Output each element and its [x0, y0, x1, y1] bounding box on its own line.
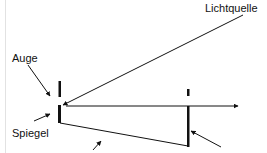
- incident-ray: [63, 15, 243, 105]
- right-bar: [187, 106, 190, 147]
- eye-bar: [59, 81, 62, 97]
- bottom-pointer-arrow: [93, 141, 101, 150]
- slanted-line: [60, 123, 188, 146]
- eye-pointer-arrow: [28, 65, 50, 96]
- right-marker-top: [187, 89, 190, 96]
- mirror-bar: [58, 105, 61, 123]
- mirror-pointer-arrow: [34, 114, 50, 121]
- mirror-label: Spiegel: [12, 128, 49, 139]
- eye-label: Auge: [12, 53, 38, 64]
- light-source-label: Lichtquelle: [205, 3, 258, 14]
- right-bar-pointer-arrow: [191, 131, 221, 147]
